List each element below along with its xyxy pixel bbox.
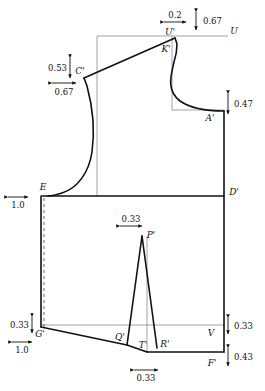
pattern-drawing: U' U K' C' A' E D' P' G' Q' T' R' V F' 0… <box>0 0 265 391</box>
label-E: E <box>39 182 47 192</box>
dim-label-0-33-hem: 0.33 <box>137 373 156 383</box>
dim-label-0-67-top: 0.67 <box>203 16 222 26</box>
label-Q-prime: Q' <box>115 332 125 342</box>
pattern-svg: U' U K' C' A' E D' P' G' Q' T' R' V F' 0… <box>0 0 265 391</box>
dim-label-0-33-g: 0.33 <box>10 320 29 330</box>
label-T-prime: T' <box>139 340 147 350</box>
label-P-prime: P' <box>146 230 156 240</box>
label-U-prime: U' <box>165 27 175 37</box>
hem-left <box>41 327 147 352</box>
label-U: U <box>230 26 238 36</box>
label-F-prime: F' <box>207 358 217 368</box>
dim-label-0-33-v: 0.33 <box>234 321 253 331</box>
label-C-prime: C' <box>75 66 84 76</box>
label-V: V <box>208 328 216 338</box>
armhole-curve <box>171 38 224 111</box>
pattern-outline <box>41 38 224 352</box>
dim-label-0-2: 0.2 <box>168 10 182 20</box>
dim-label-0-53: 0.53 <box>48 63 67 73</box>
dim-label-0-43: 0.43 <box>234 352 253 362</box>
dim-label-1-0-g: 1.0 <box>15 345 29 355</box>
label-A-prime: A' <box>205 113 215 123</box>
dart-right-leg <box>142 236 157 348</box>
dim-label-1-0-e: 1.0 <box>11 200 25 210</box>
dim-label-0-33-p: 0.33 <box>122 214 141 224</box>
label-G-prime: G' <box>35 329 45 339</box>
label-K-prime: K' <box>160 44 170 54</box>
dart-left-leg <box>127 236 142 345</box>
dim-label-0-47: 0.47 <box>234 99 253 109</box>
point-label-group: U' U K' C' A' E D' P' G' Q' T' R' V F' <box>35 26 239 368</box>
label-R-prime: R' <box>159 339 169 349</box>
label-D-prime: D' <box>228 187 239 197</box>
dim-label-0-67-c: 0.67 <box>55 87 74 97</box>
